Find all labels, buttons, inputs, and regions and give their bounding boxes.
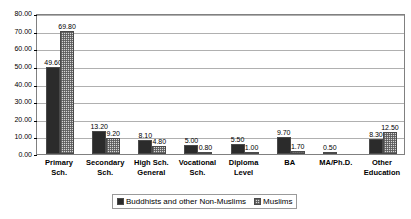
- bar[interactable]: 69.80: [60, 31, 74, 154]
- x-category-label: DiplomaLevel: [221, 158, 267, 177]
- x-category-label-line: Secondary: [82, 158, 128, 168]
- bar-slot: 49.60: [46, 15, 60, 154]
- bar[interactable]: 8.30: [369, 139, 383, 154]
- bar-value-label: 5.50: [231, 136, 245, 144]
- bar-slot: 69.80: [60, 15, 74, 154]
- x-category-label-line: General: [128, 168, 174, 178]
- bar-value-label: 8.10: [139, 132, 153, 140]
- x-category-label: OtherEducation: [359, 158, 405, 177]
- bar[interactable]: 1.00: [245, 152, 259, 154]
- y-tick-label: 80.00: [14, 10, 32, 18]
- bar-group: 0.50: [314, 15, 360, 154]
- bar-value-label: 1.70: [291, 143, 305, 151]
- bar-value-label: 0.80: [199, 144, 213, 152]
- bar-slot: 8.10: [138, 15, 152, 154]
- y-tick-label: 0.00: [18, 151, 32, 159]
- y-axis: 0.0010.0020.0030.0040.0050.0060.0070.008…: [0, 8, 34, 158]
- x-category-label: PrimarySch.: [36, 158, 82, 177]
- bar-slot: 0.50: [323, 15, 337, 154]
- bar[interactable]: 5.00: [184, 145, 198, 154]
- bar-group: 5.501.00: [222, 15, 268, 154]
- x-category-label: SecondarySch.: [82, 158, 128, 177]
- x-category-label-line: Diploma: [221, 158, 267, 168]
- bar-group: 8.104.80: [129, 15, 175, 154]
- legend-item-series-0: Buddhists and other Non-Muslims: [117, 197, 246, 206]
- y-tick-label: 10.00: [14, 133, 32, 141]
- x-category-label: MA/Ph.D.: [313, 158, 359, 168]
- bar-slot: 9.20: [106, 15, 120, 154]
- bars-layer: 49.6069.8013.209.208.104.805.000.805.501…: [37, 15, 404, 154]
- bar-slot: 5.00: [184, 15, 198, 154]
- y-tick-label: 50.00: [14, 63, 32, 71]
- bar-group: 9.701.70: [268, 15, 314, 154]
- x-category-label-line: Vocational: [174, 158, 220, 168]
- bar-value-label: 4.80: [153, 138, 167, 146]
- y-tick-label: 20.00: [14, 116, 32, 124]
- x-category-label-line: High Sch.: [128, 158, 174, 168]
- x-category-label: High Sch.General: [128, 158, 174, 177]
- bar-slot: 5.50: [231, 15, 245, 154]
- x-category-label-line: BA: [267, 158, 313, 168]
- y-tick-label: 40.00: [14, 81, 32, 89]
- x-axis-category-labels: PrimarySch.SecondarySch.High Sch.General…: [36, 158, 405, 188]
- bar[interactable]: 0.80: [198, 152, 212, 154]
- legend-item-series-1: Muslims: [254, 197, 292, 206]
- bar[interactable]: 1.70: [291, 151, 305, 154]
- bar[interactable]: 12.50: [383, 132, 397, 154]
- bar-group: 13.209.20: [83, 15, 129, 154]
- x-category-label-line: Other: [359, 158, 405, 168]
- bar-slot: 9.70: [277, 15, 291, 154]
- bar[interactable]: 8.10: [138, 140, 152, 154]
- bar-slot: 1.00: [245, 15, 259, 154]
- bar-chart: 0.0010.0020.0030.0040.0050.0060.0070.008…: [0, 0, 411, 219]
- bar-slot: 4.80: [152, 15, 166, 154]
- x-category-label-line: Sch.: [36, 168, 82, 178]
- x-category-label-line: Sch.: [174, 168, 220, 178]
- x-category-label-line: MA/Ph.D.: [313, 158, 359, 168]
- bar-value-label: 0.50: [323, 144, 337, 152]
- bar-value-label: 9.70: [277, 129, 291, 137]
- bar-value-label: 5.00: [185, 137, 199, 145]
- chart-legend: Buddhists and other Non-Muslims Muslims: [112, 194, 297, 209]
- legend-label-series-1: Muslims: [263, 197, 292, 206]
- bar[interactable]: 0.50: [323, 152, 337, 154]
- bar-slot: [337, 15, 351, 154]
- y-tick-label: 30.00: [14, 98, 32, 106]
- bar-slot: 12.50: [383, 15, 397, 154]
- legend-label-series-0: Buddhists and other Non-Muslims: [126, 197, 246, 206]
- bar-value-label: 12.50: [381, 124, 399, 132]
- x-category-label: BA: [267, 158, 313, 168]
- plot-area: 49.6069.8013.209.208.104.805.000.805.501…: [36, 14, 405, 155]
- x-category-label: VocationalSch.: [174, 158, 220, 177]
- bar-group: 49.6069.80: [37, 15, 83, 154]
- bar[interactable]: 4.80: [152, 146, 166, 154]
- bar-group: 8.3012.50: [360, 15, 406, 154]
- bar-slot: 0.80: [198, 15, 212, 154]
- y-tick-mark: [34, 155, 37, 156]
- bar-slot: 1.70: [291, 15, 305, 154]
- bar-value-label: 8.30: [369, 131, 383, 139]
- bar-slot: 8.30: [369, 15, 383, 154]
- bar[interactable]: 49.60: [46, 67, 60, 154]
- bar-value-label: 1.00: [245, 144, 259, 152]
- x-category-label-line: Sch.: [82, 168, 128, 178]
- bar[interactable]: 5.50: [231, 144, 245, 154]
- y-tick-label: 60.00: [14, 45, 32, 53]
- bar-value-label: 9.20: [106, 130, 120, 138]
- bar-group: 5.000.80: [175, 15, 221, 154]
- bar-slot: 13.20: [92, 15, 106, 154]
- x-category-label-line: Primary: [36, 158, 82, 168]
- bar[interactable]: 13.20: [92, 131, 106, 154]
- x-category-label-line: Education: [359, 168, 405, 178]
- y-tick-label: 70.00: [14, 28, 32, 36]
- legend-swatch-icon-series-0: [117, 198, 124, 205]
- legend-swatch-icon-series-1: [254, 198, 261, 205]
- bar-value-label: 69.80: [58, 23, 76, 31]
- bar[interactable]: 9.70: [277, 137, 291, 154]
- x-category-label-line: Level: [221, 168, 267, 178]
- bar[interactable]: 9.20: [106, 138, 120, 154]
